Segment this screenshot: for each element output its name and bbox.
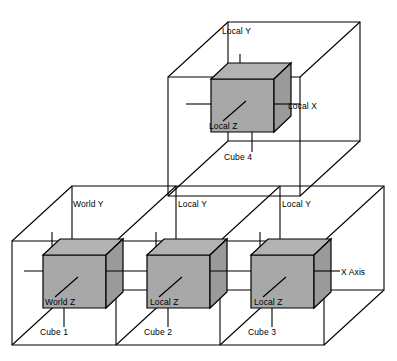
- cube-2-z-axis-label: Local Z: [150, 297, 179, 307]
- cube-2-name-label: Cube 2: [144, 327, 172, 337]
- cube-3-x-axis-label: X Axis: [341, 267, 365, 277]
- cube-3-y-axis-label: Local Y: [282, 199, 311, 209]
- cube-4-z-axis-label: Local Z: [209, 121, 238, 131]
- cube-4-y-axis-label: Local Y: [222, 26, 251, 36]
- cube-4-name-label: Cube 4: [224, 152, 252, 162]
- cube-3-name-label: Cube 3: [248, 327, 276, 337]
- diagram-canvas: Local Y Local Z Local X Cube 4 World Y W…: [0, 0, 397, 361]
- cube-1-z-axis-label: World Z: [45, 297, 75, 307]
- cube-1-name-label: Cube 1: [40, 327, 68, 337]
- cube-3-z-axis-label: Local Z: [254, 297, 283, 307]
- cube-2-y-axis-label: Local Y: [178, 199, 207, 209]
- cube-4-x-axis-label: Local X: [288, 101, 317, 111]
- cube-1-y-axis-label: World Y: [73, 199, 104, 209]
